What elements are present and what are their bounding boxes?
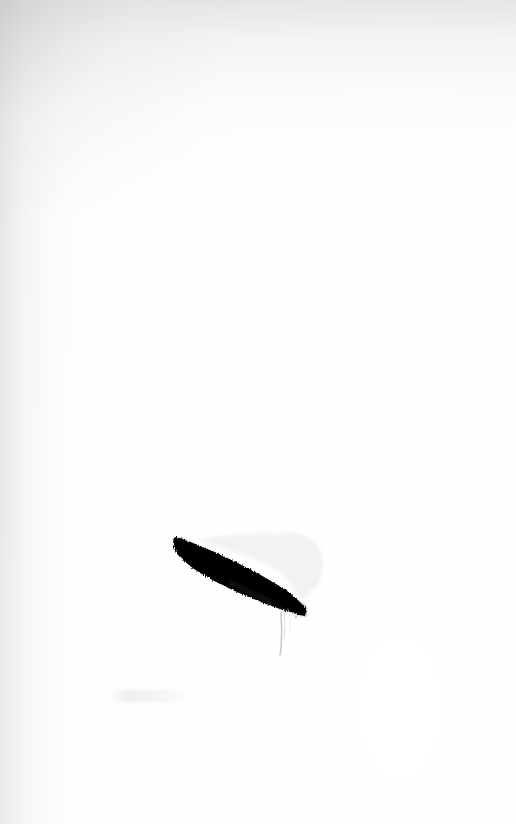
paper-background [0,0,516,824]
artwork-canvas: Black ink brushstroke on white paper ink… [0,0,516,824]
